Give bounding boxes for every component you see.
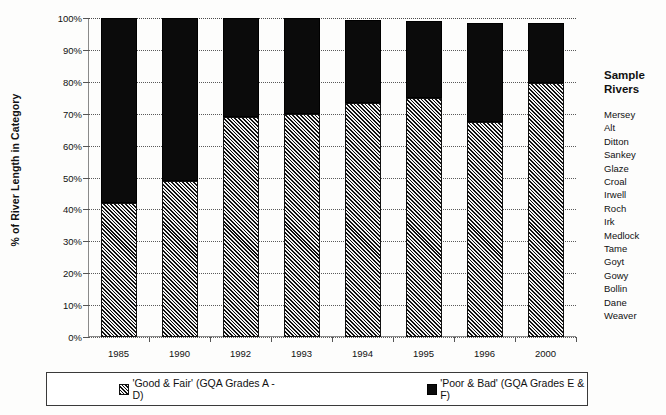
x-tick-label: 1985: [108, 348, 129, 359]
bar-segment-good-fair[interactable]: [467, 122, 503, 337]
river-list-item: Ditton: [604, 135, 664, 148]
river-list-item: Gowy: [604, 269, 664, 282]
bar-segment-good-fair[interactable]: [528, 83, 564, 337]
stacked-bar[interactable]: [467, 23, 503, 337]
bar-segment-poor-bad[interactable]: [101, 18, 137, 203]
river-list-item: Mersey: [604, 108, 664, 121]
stacked-bar[interactable]: [406, 21, 442, 337]
bar-slot: [210, 18, 271, 337]
stacked-bar[interactable]: [284, 18, 320, 337]
legend-item-good-fair: 'Good & Fair' (GQA Grades A - D): [119, 377, 279, 401]
x-tick-mark: [454, 337, 455, 342]
river-list-item: Sankey: [604, 148, 664, 161]
bar-segment-good-fair[interactable]: [101, 203, 137, 337]
x-tick-mark: [332, 337, 333, 342]
stacked-bar[interactable]: [528, 23, 564, 337]
river-list-item: Croal: [604, 175, 664, 188]
stacked-bar[interactable]: [345, 20, 381, 337]
bar-segment-poor-bad[interactable]: [284, 18, 320, 114]
x-tick-mark: [210, 337, 211, 342]
bar-segment-poor-bad[interactable]: [162, 18, 198, 181]
y-tick-label: 20%: [48, 268, 82, 279]
y-tick-label: 70%: [48, 108, 82, 119]
sample-rivers-title-line2: Rivers: [604, 82, 664, 96]
river-list-item: Tame: [604, 242, 664, 255]
sample-rivers-title-line1: Sample: [604, 68, 664, 82]
legend-label-good-fair: 'Good & Fair' (GQA Grades A - D): [132, 377, 278, 401]
chart-plot-area: % of River Length in Category 0%10%20%30…: [0, 0, 600, 365]
y-tick-label: 60%: [48, 140, 82, 151]
y-tick-label: 0%: [48, 332, 82, 343]
y-tick-label: 40%: [48, 204, 82, 215]
river-list-item: Medlock: [604, 229, 664, 242]
bar-segment-good-fair[interactable]: [406, 98, 442, 337]
legend-item-poor-bad: 'Poor & Bad' (GQA Grades E & F): [427, 377, 587, 401]
bar-segment-poor-bad[interactable]: [467, 23, 503, 122]
y-tick-label: 90%: [48, 44, 82, 55]
stacked-bar[interactable]: [162, 18, 198, 337]
river-list-item: Dane: [604, 296, 664, 309]
bar-slot: [332, 18, 393, 337]
y-axis-title: % of River Length in Category: [4, 0, 26, 340]
river-list-item: Goyt: [604, 255, 664, 268]
x-tick-mark: [149, 337, 150, 342]
y-tick-label: 30%: [48, 236, 82, 247]
x-tick-label: 1994: [352, 348, 373, 359]
river-list-item: Alt: [604, 121, 664, 134]
y-tick-mark: [83, 337, 89, 338]
hatch-swatch-icon: [119, 384, 129, 395]
chart-page: % of River Length in Category 0%10%20%30…: [0, 0, 666, 415]
x-tick-mark: [271, 337, 272, 342]
axes: 0%10%20%30%40%50%60%70%80%90%100% 198519…: [88, 18, 576, 337]
y-axis-title-text: % of River Length in Category: [9, 94, 21, 247]
bar-segment-good-fair[interactable]: [345, 103, 381, 337]
bar-segment-poor-bad[interactable]: [223, 18, 259, 117]
stacked-bar[interactable]: [101, 18, 137, 337]
bar-slot: [271, 18, 332, 337]
y-tick-label: 50%: [48, 172, 82, 183]
river-list-item: Bollin: [604, 282, 664, 295]
river-list-item: Irwell: [604, 188, 664, 201]
bar-slot: [393, 18, 454, 337]
x-tick-label: 1996: [474, 348, 495, 359]
bar-series: [88, 18, 576, 337]
bar-segment-good-fair[interactable]: [284, 114, 320, 337]
y-tick-label: 10%: [48, 300, 82, 311]
river-list-item: Weaver: [604, 309, 664, 322]
stacked-bar[interactable]: [223, 18, 259, 337]
bar-slot: [149, 18, 210, 337]
bar-slot: [454, 18, 515, 337]
chart-legend: 'Good & Fair' (GQA Grades A - D) 'Poor &…: [46, 372, 588, 406]
bar-slot: [88, 18, 149, 337]
legend-label-poor-bad: 'Poor & Bad' (GQA Grades E & F): [440, 377, 587, 401]
bar-segment-poor-bad[interactable]: [528, 23, 564, 84]
sample-rivers-list: MerseyAltDittonSankeyGlazeCroalIrwellRoc…: [604, 108, 664, 323]
river-list-item: Roch: [604, 202, 664, 215]
x-tick-label: 1995: [413, 348, 434, 359]
x-tick-mark: [576, 337, 577, 342]
sample-rivers-panel: Sample Rivers MerseyAltDittonSankeyGlaze…: [604, 68, 664, 323]
river-list-item: Glaze: [604, 162, 664, 175]
x-tick-mark: [515, 337, 516, 342]
x-tick-mark: [393, 337, 394, 342]
y-tick-label: 100%: [48, 13, 82, 24]
black-swatch-icon: [427, 384, 437, 395]
bar-slot: [515, 18, 576, 337]
x-tick-label: 2000: [535, 348, 556, 359]
river-list-item: Irk: [604, 215, 664, 228]
x-tick-label: 1993: [291, 348, 312, 359]
x-tick-label: 1990: [169, 348, 190, 359]
bar-segment-good-fair[interactable]: [223, 117, 259, 337]
bar-segment-poor-bad[interactable]: [406, 21, 442, 98]
bar-segment-poor-bad[interactable]: [345, 20, 381, 103]
x-tick-label: 1992: [230, 348, 251, 359]
y-tick-label: 80%: [48, 76, 82, 87]
bar-segment-good-fair[interactable]: [162, 181, 198, 337]
